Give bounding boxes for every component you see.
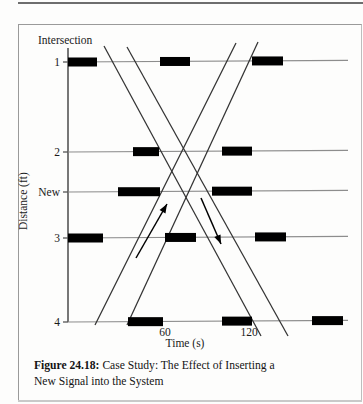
x-axis-title: Time (s) [166,337,205,350]
signal-bar-row-1-2 [160,57,190,66]
x-tick-label-120: 120 [240,326,258,338]
y-axis-ticks: 12New34 [38,56,68,328]
direction-arrows [136,198,221,258]
signal-bar-row-4-2 [222,317,252,326]
gridline-row-4 [68,320,348,322]
intersection-corner-label: Intersection [38,34,93,46]
y-tick-label-3: 3 [54,232,60,244]
signal-bar-row-1-3 [252,56,283,65]
figure-plot-area: Intersection Distance (ft) Time (s) 12Ne… [0,0,363,352]
signal-bar-row-4-1 [128,317,163,326]
signal-bar-row-2-2 [222,147,252,156]
arrow-head-downbound-direction-arrow [214,234,221,244]
figure-caption-line1: Case Study: The Effect of Inserting a [99,359,274,372]
x-tick-label-60: 60 [159,326,171,338]
signal-bar-row-1-1 [68,58,97,67]
y-tick-label-4: 4 [54,316,60,328]
signal-bar-row-2-1 [133,147,159,156]
signal-bar-row-4-3 [312,316,343,325]
y-tick-label-1: 1 [54,56,60,68]
gridline-row-1 [68,60,348,62]
signal-bar-row-new-1 [118,187,160,196]
time-space-diagram: Intersection Distance (ft) Time (s) 12Ne… [0,0,363,352]
signal-bar-row-new-2 [212,187,252,196]
figure-caption: Figure 24.18: Case Study: The Effect of … [34,358,354,389]
y-tick-label-new: New [38,186,60,198]
y-tick-label-2: 2 [54,146,60,158]
signal-bar-row-3-1 [68,234,103,243]
figure-number: Figure 24.18: [34,359,99,372]
signal-bar-row-3-2 [165,233,196,242]
trajectory-upbound-2 [127,42,258,325]
signal-bar-row-3-3 [255,232,286,241]
figure-caption-line2: New Signal into the System [34,374,354,390]
scanned-page: Intersection Distance (ft) Time (s) 12Ne… [0,0,363,404]
arrow-head-upbound-direction-arrow [160,204,167,213]
trajectory-upbound-1 [95,43,236,325]
y-axis-title: Distance (ft) [17,172,30,230]
page-bottom-rule [18,400,362,402]
